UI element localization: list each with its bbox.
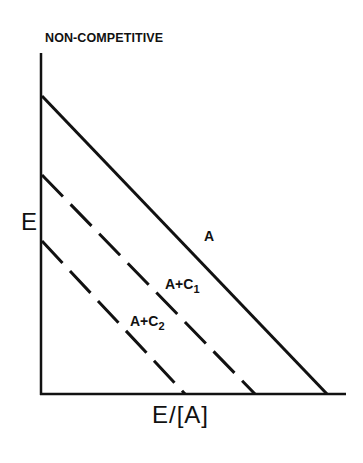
series-label-a-c2-subscript: 2	[158, 320, 164, 332]
series-label-a-c2-text: A+C	[130, 313, 158, 329]
series-line-a	[42, 96, 327, 394]
series-label-a-c1: A+C1	[165, 276, 200, 295]
plot-area	[0, 0, 363, 463]
series-label-a-c2: A+C2	[130, 313, 165, 332]
series-label-a-c1-text: A+C	[165, 276, 193, 292]
chart-title: NON-COMPETITIVE	[45, 31, 163, 45]
series-label-a: A	[204, 228, 214, 244]
x-axis-label: E/[A]	[152, 401, 209, 429]
y-axis-label: E	[21, 208, 37, 236]
series-label-a-c1-subscript: 1	[193, 283, 199, 295]
